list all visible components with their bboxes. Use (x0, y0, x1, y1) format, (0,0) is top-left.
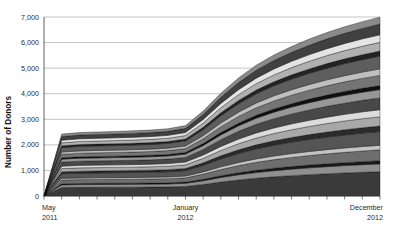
y-tick-label: 3,000 (21, 115, 39, 124)
x-tick-label-line2: 2012 (177, 213, 193, 222)
y-axis-title: Number of Donors (4, 96, 13, 168)
chart-canvas: 01,0002,0003,0004,0005,0006,0007,000 May… (0, 0, 404, 235)
donor-area-chart: 01,0002,0003,0004,0005,0006,0007,000 May… (0, 0, 404, 235)
stacked-areas-group (44, 17, 380, 196)
x-tick-labels-group: May2011January2012December2012 (42, 203, 384, 222)
x-tick-label-line2: 2011 (42, 213, 57, 222)
y-tick-label: 6,000 (21, 38, 39, 47)
y-tick-label: 1,000 (21, 166, 39, 175)
x-tick-label-line1: January (173, 203, 199, 212)
y-tick-label: 7,000 (21, 13, 39, 22)
x-tick-label-line2: 2012 (367, 213, 383, 222)
x-tick-label-line1: May (42, 203, 56, 212)
y-tick-label: 4,000 (21, 89, 39, 98)
y-tick-labels-group: 01,0002,0003,0004,0005,0006,0007,000 (21, 13, 39, 201)
y-tick-label: 2,000 (21, 140, 39, 149)
y-tick-label: 0 (35, 192, 39, 201)
y-tick-label: 5,000 (21, 64, 39, 73)
x-tick-label-line1: December (350, 203, 384, 212)
